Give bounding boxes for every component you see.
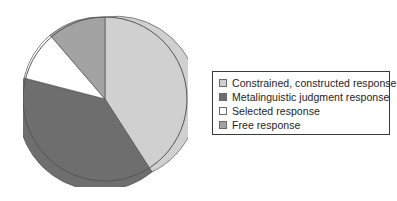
legend-item-label: Free response xyxy=(232,118,300,132)
legend-swatch-icon xyxy=(219,93,227,101)
legend-item-metalinguistic-judgment-response[interactable]: Metalinguistic judgment response xyxy=(219,90,384,104)
legend-item-label: Constrained, constructed response xyxy=(232,76,397,90)
pie-chart-plot-area xyxy=(23,12,188,187)
legend-item-selected-response[interactable]: Selected response xyxy=(219,104,384,118)
legend-item-label: Selected response xyxy=(232,104,320,118)
legend-item-label: Metalinguistic judgment response xyxy=(232,90,389,104)
chart-legend: Constrained, constructed response Metali… xyxy=(212,71,390,135)
legend-item-free-response[interactable]: Free response xyxy=(219,118,384,132)
pie-chart-svg xyxy=(23,12,188,187)
pie-chart-figure: Constrained, constructed response Metali… xyxy=(0,0,397,201)
legend-item-constrained-constructed-response[interactable]: Constrained, constructed response xyxy=(219,76,384,90)
legend-swatch-icon xyxy=(219,121,227,129)
legend-swatch-icon xyxy=(219,79,227,87)
legend-swatch-icon xyxy=(219,107,227,115)
